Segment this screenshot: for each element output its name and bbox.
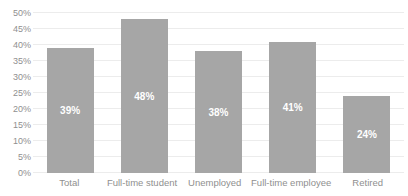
bar-slot: 41% [256, 13, 330, 173]
category-label: Full-time student [106, 177, 179, 188]
bar-slot: 48% [107, 13, 181, 173]
y-tick-label: 15% [0, 120, 31, 130]
bar-slot: 39% [33, 13, 107, 173]
bar-value-label: 38% [208, 107, 228, 118]
y-tick-label: 0% [0, 168, 31, 178]
bar: 39% [47, 48, 94, 173]
bar: 24% [343, 96, 390, 173]
bar-value-label: 41% [283, 102, 303, 113]
y-tick-label: 5% [0, 152, 31, 162]
bar-slot: 24% [330, 13, 404, 173]
y-tick-label: 40% [0, 40, 31, 50]
y-tick-label: 10% [0, 136, 31, 146]
category-label: Full-time employee [251, 177, 331, 188]
bar: 41% [269, 42, 316, 173]
y-tick-label: 25% [0, 88, 31, 98]
x-axis: TotalFull-time studentUnemployedFull-tim… [33, 177, 404, 188]
category-label: Total [33, 177, 106, 188]
bar: 38% [195, 51, 242, 173]
y-tick-label: 30% [0, 72, 31, 82]
bar-value-label: 24% [357, 129, 377, 140]
bar: 48% [121, 19, 168, 173]
bar-slot: 38% [181, 13, 255, 173]
bar-series: 39%48%38%41%24% [33, 13, 404, 173]
y-tick-label: 45% [0, 24, 31, 34]
y-tick-label: 35% [0, 56, 31, 66]
y-tick-label: 20% [0, 104, 31, 114]
bar-chart: 0%5%10%15%20%25%30%35%40%45%50% 39%48%38… [0, 0, 408, 196]
category-label: Unemployed [178, 177, 251, 188]
plot-area: 39%48%38%41%24% [33, 13, 404, 173]
category-label: Retired [331, 177, 404, 188]
bar-value-label: 39% [60, 105, 80, 116]
bar-value-label: 48% [134, 91, 154, 102]
y-tick-label: 50% [0, 8, 31, 18]
